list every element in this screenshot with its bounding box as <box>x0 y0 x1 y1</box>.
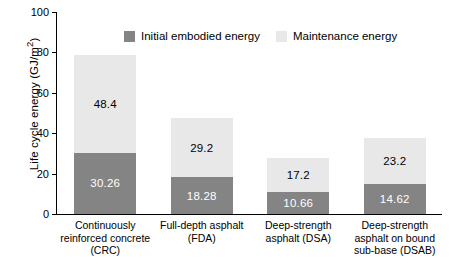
x-axis-category-labels: Continuouslyreinforced concrete(CRC)Full… <box>57 219 443 267</box>
x-axis-category-label: Deep-strengthasphalt on boundsub-base (D… <box>347 219 444 257</box>
legend-label-maintenance: Maintenance energy <box>293 30 397 42</box>
y-axis-title: Life cycle energy (GJ/m2) <box>24 0 40 214</box>
y-tick: 0 <box>56 214 57 215</box>
plot-area: 020406080100 48.430.2629.218.2817.210.66… <box>56 12 442 215</box>
y-axis-title-suffix: ) <box>28 38 40 42</box>
legend-item-maintenance-energy: Maintenance energy <box>276 30 397 42</box>
category-label-line: sub-base (DSAB) <box>347 244 444 257</box>
y-tick-mark <box>52 133 56 134</box>
category-label-line: (CRC) <box>57 244 154 257</box>
y-tick-label: 100 <box>31 6 49 18</box>
y-tick-mark <box>52 214 56 215</box>
category-label-line: reinforced concrete <box>57 232 154 245</box>
y-tick-mark <box>52 52 56 53</box>
bar-segment-initial-embodied-energy: 30.26 <box>74 153 136 214</box>
bar-group: 48.430.26 <box>74 55 136 214</box>
bar-value-label-maintenance: 48.4 <box>94 98 117 110</box>
bar-segment-initial-embodied-energy: 14.62 <box>364 184 426 214</box>
bar-value-label-embodied: 30.26 <box>90 177 120 189</box>
category-label-line: (FDA) <box>154 232 251 245</box>
category-label-line: Full-depth asphalt <box>154 219 251 232</box>
category-label-line: asphalt (DSA) <box>250 232 347 245</box>
y-tick-mark <box>52 93 56 94</box>
category-label-line: Deep-strength <box>250 219 347 232</box>
bar-group: 17.210.66 <box>267 158 329 214</box>
y-tick-mark <box>52 174 56 175</box>
bar-group: 23.214.62 <box>364 138 426 214</box>
x-axis-category-label: Full-depth asphalt(FDA) <box>154 219 251 244</box>
y-axis-title-text: Life cycle energy (GJ/m <box>28 47 40 170</box>
bar-value-label-embodied: 18.28 <box>187 190 217 202</box>
bar-segment-maintenance-energy: 17.2 <box>267 158 329 193</box>
y-tick-label: 60 <box>37 87 49 99</box>
life-cycle-energy-chart: Life cycle energy (GJ/m2) 020406080100 4… <box>0 0 457 270</box>
x-axis-category-label: Continuouslyreinforced concrete(CRC) <box>57 219 154 257</box>
legend-item-initial-embodied-energy: Initial embodied energy <box>124 30 260 42</box>
x-axis-category-label: Deep-strengthasphalt (DSA) <box>250 219 347 244</box>
legend-swatch-icon-maintenance <box>276 31 287 42</box>
bar-value-label-maintenance: 17.2 <box>287 169 310 181</box>
legend-label-embodied: Initial embodied energy <box>141 30 260 42</box>
category-label-line: asphalt on bound <box>347 232 444 245</box>
bar-segment-maintenance-energy: 23.2 <box>364 138 426 185</box>
legend-swatch-icon-embodied <box>124 31 135 42</box>
y-tick-label: 40 <box>37 127 49 139</box>
y-tick-label: 20 <box>37 168 49 180</box>
y-tick-label: 80 <box>37 46 49 58</box>
y-tick-mark <box>52 12 56 13</box>
bar-value-label-maintenance: 29.2 <box>190 142 213 154</box>
bar-segment-maintenance-energy: 48.4 <box>74 55 136 153</box>
category-label-line: Deep-strength <box>347 219 444 232</box>
bar-group: 29.218.28 <box>171 118 233 214</box>
bar-value-label-maintenance: 23.2 <box>383 155 406 167</box>
bar-value-label-embodied: 10.66 <box>283 197 313 209</box>
category-label-line: Continuously <box>57 219 154 232</box>
bar-segment-initial-embodied-energy: 18.28 <box>171 177 233 214</box>
y-tick-label: 0 <box>43 208 49 220</box>
x-axis-line <box>56 214 442 215</box>
y-axis-title-exponent: 2 <box>24 42 35 47</box>
bar-segment-maintenance-energy: 29.2 <box>171 118 233 177</box>
bar-series-container: 48.430.2629.218.2817.210.6623.214.62 <box>57 12 442 214</box>
chart-legend: Initial embodied energy Maintenance ener… <box>124 30 397 42</box>
bar-segment-initial-embodied-energy: 10.66 <box>267 192 329 214</box>
bar-value-label-embodied: 14.62 <box>380 193 410 205</box>
